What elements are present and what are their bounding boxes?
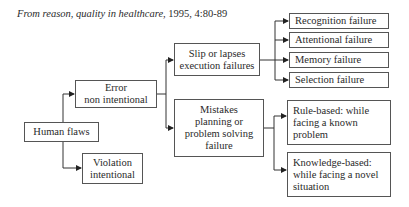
node-recognition-failure: Recognition failure (289, 13, 389, 29)
node-label: failure (205, 140, 232, 152)
node-label: intentional (90, 169, 135, 181)
node-rule-based: Rule-based: while facing a known problem (287, 100, 391, 145)
node-label: situation (293, 181, 390, 193)
node-label: planning or (195, 116, 243, 128)
node-label: Violation (93, 157, 132, 169)
node-label: Mistakes (200, 104, 238, 116)
node-label: Knowledge-based: (293, 157, 390, 169)
node-label: non intentional (84, 94, 147, 106)
node-label: facing a known (293, 117, 390, 129)
node-label: Attentional failure (295, 34, 388, 46)
node-attentional-failure: Attentional failure (289, 32, 389, 48)
node-label: Human flaws (33, 126, 89, 138)
node-knowledge-based: Knowledge-based: while facing a novel si… (287, 152, 391, 197)
node-violation-intentional: Violation intentional (82, 153, 143, 184)
node-mistakes: Mistakes planning or problem solving fai… (174, 99, 264, 157)
node-label: problem solving (185, 128, 254, 140)
node-memory-failure: Memory failure (289, 52, 389, 68)
node-label: Error (105, 82, 127, 94)
node-slip-or-lapses: Slip or lapses execution failures (174, 43, 260, 76)
node-label: Selection failure (295, 74, 388, 86)
node-error-non-intentional: Error non intentional (75, 80, 157, 108)
node-label: problem (293, 129, 390, 141)
node-label: while facing a novel (293, 169, 390, 181)
node-human-flaws: Human flaws (24, 122, 99, 142)
node-selection-failure: Selection failure (289, 72, 389, 88)
node-label: Rule-based: while (293, 105, 390, 117)
node-label: Slip or lapses (189, 48, 246, 60)
node-label: Memory failure (295, 54, 388, 66)
node-label: Recognition failure (295, 15, 388, 27)
node-label: execution failures (180, 60, 255, 72)
